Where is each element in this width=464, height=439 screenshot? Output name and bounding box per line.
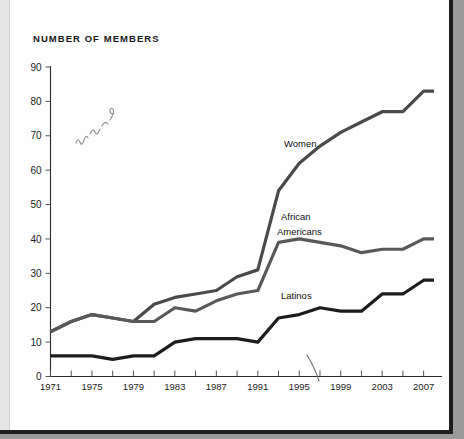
series-line-african-americans [51, 239, 435, 332]
x-tick-label: 1987 [206, 381, 227, 392]
series-label-african-americans-line1: African [281, 211, 311, 222]
x-axis-tick-labels: 1971197519791983198719911995199920032007 [40, 381, 434, 392]
y-tick-label: 10 [30, 337, 42, 348]
series-label-women: Women [284, 138, 317, 149]
handwritten-scribble [76, 108, 114, 144]
x-tick-label: 1979 [123, 381, 144, 392]
y-tick-label: 70 [30, 130, 42, 141]
y-tick-label: 40 [30, 234, 42, 245]
x-tick-label: 1983 [164, 381, 185, 392]
stray-pen-mark [307, 355, 319, 381]
y-tick-label: 80 [30, 96, 42, 107]
x-tick-label: 1971 [40, 381, 61, 392]
x-tick-label: 2007 [413, 381, 434, 392]
x-tick-label: 1995 [289, 381, 310, 392]
y-tick-label: 30 [30, 268, 42, 279]
x-tick-label: 1999 [330, 381, 351, 392]
scanned-page: NUMBER OF MEMBERS 0102030405060708090 19… [0, 0, 464, 439]
line-chart: 0102030405060708090 19711975197919831987… [0, 0, 464, 439]
x-axis-ticks [51, 371, 424, 377]
x-tick-label: 1975 [81, 381, 102, 392]
data-series-group [51, 91, 435, 359]
y-tick-label: 20 [30, 302, 42, 313]
y-tick-label: 60 [30, 165, 42, 176]
x-tick-label: 1991 [247, 381, 268, 392]
y-tick-label: 50 [30, 199, 42, 210]
y-tick-label: 90 [30, 62, 42, 73]
y-axis-ticks [46, 67, 51, 377]
series-label-latinos: Latinos [281, 290, 312, 301]
y-axis-tick-labels: 0102030405060708090 [30, 62, 42, 383]
x-tick-label: 2003 [372, 381, 393, 392]
series-label-african-americans-line2: Americans [277, 226, 322, 237]
series-line-women [51, 91, 435, 332]
